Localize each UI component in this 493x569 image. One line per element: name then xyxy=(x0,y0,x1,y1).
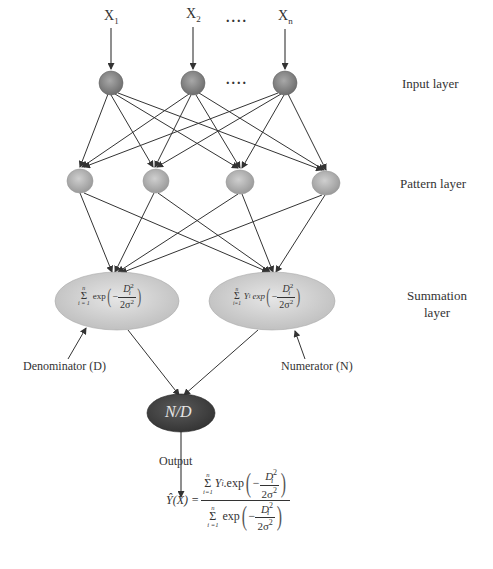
denominator-label: Denominator (D) xyxy=(23,359,106,374)
pattern-to-summation-edges xyxy=(80,193,325,273)
input-layer-nodes xyxy=(99,71,297,95)
pattern-layer-label: Pattern layer xyxy=(400,176,466,192)
pattern-node-1 xyxy=(67,169,93,193)
label-pointer-arrows xyxy=(68,328,305,359)
input-ellipsis-nodes: .... xyxy=(226,72,248,88)
output-node-label: N/D xyxy=(165,403,192,421)
summation-layer-label: Summation layer xyxy=(402,287,472,321)
input-label-x2: X2 xyxy=(186,6,201,24)
pattern-node-4 xyxy=(312,171,340,195)
input-label-x1: X1 xyxy=(104,8,119,26)
pattern-node-2 xyxy=(143,169,169,193)
input-arrows xyxy=(111,27,285,69)
numerator-label: Numerator (N) xyxy=(281,359,353,374)
input-node-2 xyxy=(181,71,205,95)
pattern-layer-nodes xyxy=(67,169,340,195)
input-ellipsis-top: .... xyxy=(226,10,248,26)
pattern-node-3 xyxy=(226,170,254,194)
input-node-1 xyxy=(99,71,123,95)
output-formula: Ŷ(X) = n Σ i=1 Yi .exp ( − D2i 2σ2 ) n Σ xyxy=(166,468,290,532)
denominator-formula: n Σ i = 1 exp ( − D2i 2σ2 ) xyxy=(78,282,143,311)
input-node-n xyxy=(273,71,297,95)
output-label: Output xyxy=(159,454,192,469)
input-to-pattern-edges xyxy=(80,93,326,170)
input-label-xn: Xn xyxy=(278,8,293,26)
input-layer-label: Input layer xyxy=(402,76,459,92)
numerator-formula: n Σ i=1 Yi exp ( − D2i 2σ2 ) xyxy=(233,282,302,311)
summation-to-output-edges xyxy=(128,330,258,395)
